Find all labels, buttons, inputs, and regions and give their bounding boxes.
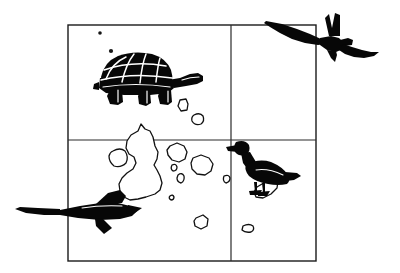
islet-dot-north: [98, 31, 102, 35]
northern-islet-two: [192, 114, 204, 125]
tortoise-front-leg-far: [138, 92, 151, 106]
san-cristobal-island: [242, 225, 254, 233]
galapagos-figure: Galapagos Islands map with endemic wildl…: [0, 0, 400, 273]
rabida-island: [171, 164, 177, 171]
pinzon-island: [177, 174, 184, 183]
santa-cruz-island: [191, 155, 213, 175]
floreana-island: [223, 175, 230, 183]
fernandina-island: [109, 149, 127, 167]
islet-dot-south: [109, 49, 113, 53]
small-islet-isabela-se: [169, 195, 174, 200]
tortoise-front-leg: [158, 90, 172, 105]
illustration-canvas: [0, 0, 400, 273]
northern-islet-one: [178, 99, 188, 111]
